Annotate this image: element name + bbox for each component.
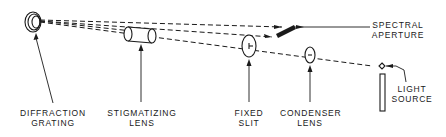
grating-leader-line <box>36 38 53 103</box>
label-line: LENS <box>104 118 180 128</box>
label-line: CONDENSER <box>280 108 340 118</box>
light-source-leader-line <box>386 66 406 82</box>
ray-lower <box>40 22 372 66</box>
cylinder-back-face <box>124 27 132 41</box>
diffraction-grating <box>25 12 41 32</box>
label-line: SOURCE <box>390 94 434 104</box>
label-line: LIGHT <box>390 84 434 94</box>
condenser-lens <box>305 47 315 63</box>
stigmatizing-lens <box>124 27 156 43</box>
label-condenser-lens: CONDENSER LENS <box>280 108 340 128</box>
arrowhead-icon <box>264 34 272 38</box>
label-line: LENS <box>280 118 340 128</box>
label-line: DIFFRACTION <box>18 108 88 118</box>
label-stigmatizing-lens: STIGMATIZING LENS <box>104 108 180 128</box>
label-line: APERTURE <box>370 30 426 40</box>
label-line: GRATING <box>18 118 88 128</box>
label-diffraction-grating: DIFFRACTION GRATING <box>18 108 88 128</box>
grating-inner-ring-icon <box>32 16 40 28</box>
fixed-slit <box>242 35 256 57</box>
label-fixed-slit: FIXED SLIT <box>229 108 269 128</box>
label-line: STIGMATIZING <box>104 108 180 118</box>
light-source-tube-icon <box>380 74 385 111</box>
arrowhead-icon <box>34 33 39 40</box>
label-line: SLIT <box>229 118 269 128</box>
label-line: FIXED <box>229 108 269 118</box>
arrowhead-icon <box>247 59 252 66</box>
arrowhead-icon <box>308 65 313 72</box>
arrowhead-icon <box>296 25 304 29</box>
label-spectral-aperture: SPECTRAL APERTURE <box>370 20 426 40</box>
label-light-source: LIGHT SOURCE <box>390 84 434 104</box>
arrowhead-icon <box>274 25 282 29</box>
cylinder-front-face <box>148 29 156 43</box>
label-line: SPECTRAL <box>370 20 426 30</box>
arrowhead-icon <box>139 44 144 51</box>
spectral-aperture <box>276 25 370 38</box>
light-source-point-icon <box>379 63 385 69</box>
arrowhead-icon <box>386 64 393 68</box>
grating-outer-ring-icon <box>25 12 41 32</box>
leader-arrows <box>34 33 313 103</box>
